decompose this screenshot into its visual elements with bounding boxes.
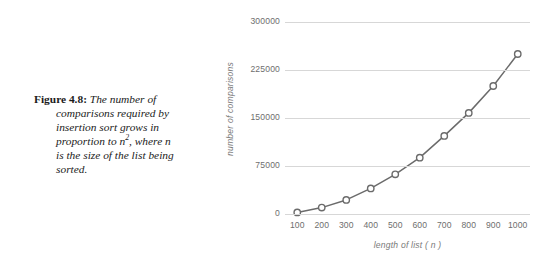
data-point-700 (441, 133, 447, 139)
data-point-600 (417, 154, 423, 160)
data-point-900 (490, 83, 496, 89)
data-point-400 (368, 185, 374, 191)
gridline-y-150000 (285, 118, 530, 119)
data-point-200 (319, 204, 325, 210)
plot-area (285, 22, 530, 214)
caption-line-2: comparisons required by (34, 106, 214, 121)
series-markers (294, 51, 521, 216)
y-tick-label-0: 0 (214, 208, 280, 218)
data-point-1000 (515, 51, 521, 57)
y-tick-label-225000: 225000 (214, 64, 280, 74)
caption-variable-n-2: n (165, 135, 171, 147)
y-tick-label-300000: 300000 (214, 16, 280, 26)
caption-line-6: sorted. (34, 162, 214, 177)
x-axis-title: length of list ( n ) (285, 240, 530, 250)
caption-line-1: Figure 4.8: The number of (34, 92, 214, 107)
x-axis-tick-labels: 1002003004005006007008009001000 (285, 220, 530, 234)
caption-line-4-post: , where (129, 135, 165, 147)
y-tick-label-75000: 75000 (214, 160, 280, 170)
y-tick-label-150000: 150000 (214, 112, 280, 122)
y-axis-tick-labels: 075000150000225000300000 (212, 22, 280, 214)
series-polyline (297, 54, 518, 212)
data-point-800 (466, 110, 472, 116)
x-tick-label-1000: 1000 (498, 220, 538, 230)
caption-line-5: is the size of the list being (34, 148, 214, 163)
line-chart: number of comparisons 075000150000225000… (212, 8, 547, 266)
data-point-500 (392, 171, 398, 177)
figure-caption: Figure 4.8: The number of comparisons re… (34, 92, 214, 177)
gridline-y-225000 (285, 70, 530, 71)
caption-line-3: insertion sort grows in (34, 120, 214, 135)
gridline-y-75000 (285, 166, 530, 167)
figure-number-label: Figure 4.8: (34, 93, 87, 105)
caption-line-4-pre: proportion to (56, 135, 120, 147)
figure-screenshot: Figure 4.8: The number of comparisons re… (0, 0, 551, 275)
caption-line-1-text: The number of (90, 93, 156, 105)
gridline-y-0 (285, 214, 530, 215)
gridline-y-300000 (285, 22, 530, 23)
caption-line-4: proportion to n2, where n (34, 134, 214, 149)
data-point-300 (343, 197, 349, 203)
